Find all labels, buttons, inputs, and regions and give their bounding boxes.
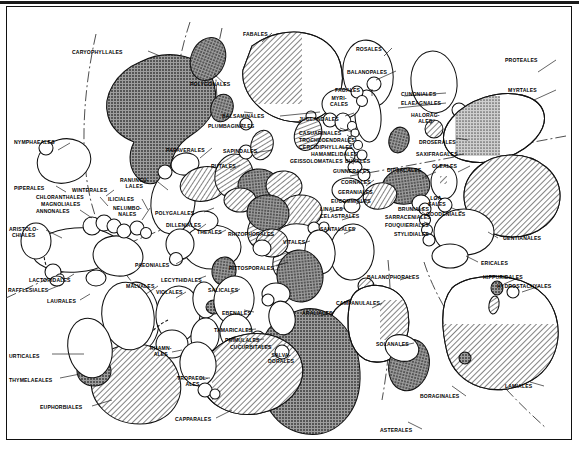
order-label-loasales: LOA-SALES <box>428 196 446 207</box>
order-label-campanulales: CAMPANULALES <box>336 301 380 307</box>
order-label-plumbaginales: PLUMBAGINALES <box>208 124 254 130</box>
order-label-rutales: RUTALES <box>211 164 236 170</box>
order-label-primulales: PRIMULALES <box>225 338 260 344</box>
order-label-aristolochiales: ARISTOLO-CHIALES <box>9 227 38 238</box>
order-label-salvadorales: SALVA-DORALES <box>268 353 294 364</box>
order-label-nymphaeales: NYMPHAEALES <box>14 140 55 146</box>
order-label-myrtales: MYRTALES <box>508 88 537 94</box>
order-label-saxifragales: SAXIFRAGALES <box>416 152 458 158</box>
order-label-ebenales: EBENALES <box>222 311 251 317</box>
order-label-polygonales: POLYGONALES <box>190 82 230 88</box>
order-label-tamaricales: TAMARICALES <box>214 328 252 334</box>
order-label-rhizophorales: RHIZOPHORALES <box>228 232 274 238</box>
order-label-geissolomatales: GEISSOLOMATALES <box>290 159 343 165</box>
order-label-capparales: CAPPARALES <box>175 417 211 423</box>
order-label-fabales: FABALES <box>243 32 268 38</box>
order-label-ranunculales: RANUNCU-LALES <box>120 178 149 189</box>
order-label-droserales: DROSERALES <box>419 140 456 146</box>
order-label-lecythidales: LECYTHIDALES <box>161 278 202 284</box>
order-label-dipsacales: DIPSACALES <box>387 168 421 174</box>
order-label-balanopales: BALANOPALES <box>347 70 387 76</box>
order-label-thymelaeales: THYMELAEALES <box>9 378 52 384</box>
order-label-balsaminales: BALSAMINALES <box>222 114 264 120</box>
order-label-sapindales: SAPINDALES <box>223 149 257 155</box>
order-label-goodeniales: GOODENIALES <box>426 212 465 218</box>
order-label-piperales: PIPERALES <box>14 186 44 192</box>
order-label-haloragales: HALORAG-ALES <box>411 113 440 124</box>
order-label-vitales: VITALES <box>283 240 305 246</box>
order-label-tropaeolales: TROPAEOL-ALES <box>177 376 208 387</box>
order-label-chloranthales: CHLORANTHALES <box>36 195 84 201</box>
order-label-fouquieriales: FOUQUIERIALES <box>385 223 429 229</box>
order-label-balanophorales: BALANOPHORALES <box>367 275 419 281</box>
order-label-fagales: FAGALES <box>335 88 360 94</box>
order-label-rafflesiales: RAFFLESIALES <box>8 288 48 294</box>
figure-canvas: CARYOPHYLLALESFABALESROSALESPROTEALESBAL… <box>0 0 579 450</box>
order-label-salicales: SALICALES <box>208 288 238 294</box>
order-label-santalales: SANTALALES <box>320 227 355 233</box>
order-label-trochodendrales: TROCHODENDRALES <box>299 138 355 144</box>
order-label-ericales: ERICALES <box>481 261 508 267</box>
order-label-juglandales: JUGLANDALES <box>299 117 339 123</box>
order-label-violales: VIOLALES <box>156 290 183 296</box>
order-label-pittosporales: PITTOSPORALES <box>229 266 274 272</box>
order-label-asterales: ASTERALES <box>380 428 412 434</box>
order-label-celastrales: CELASTRALES <box>320 214 359 220</box>
order-label-eucommiales: EUCOMMIALES <box>331 199 371 205</box>
order-label-urticales: URTICALES <box>9 354 40 360</box>
order-label-lamiales: LAMIALES <box>505 384 532 390</box>
order-label-papaverales: PAPAVERALES <box>166 148 205 154</box>
order-label-caryophyllales: CARYOPHYLLALES <box>72 50 123 56</box>
order-label-hydrostachyales: HYDROSTACHYALES <box>497 284 551 290</box>
order-label-cercidiphyllales: CERCIDIPHYLLALES <box>299 145 353 151</box>
order-label-stylidiales: STYLIDIALES <box>394 232 429 238</box>
order-label-proteales: PROTEALES <box>505 58 537 64</box>
order-label-annonales: ANNONALES <box>36 209 70 215</box>
order-label-cunoniales: CUNONIALES <box>401 92 436 98</box>
order-label-hippuridales: HIPPURIDALES <box>483 275 523 281</box>
order-label-lactoridales: LACTORIDALES <box>29 278 71 284</box>
order-label-theales: THEALES <box>197 230 222 236</box>
order-label-linales: LINALES <box>320 207 343 213</box>
order-label-boraginales: BORAGINALES <box>420 394 459 400</box>
order-label-gunnerales: GUNNERALES <box>333 169 370 175</box>
order-label-gentianales: GENTIANALES <box>503 236 541 242</box>
order-label-solanales: SOLANALES <box>376 342 409 348</box>
order-label-laurales: LAURALES <box>47 299 76 305</box>
order-label-hamamelidales: HAMAMELIDALES <box>311 152 358 158</box>
order-label-buxales: BUXALES <box>345 159 370 165</box>
order-label-casuarinales: CASUARINALES <box>299 131 341 137</box>
order-label-winterales: WINTERALES <box>72 188 107 194</box>
order-label-malvales: MALVALES <box>126 284 154 290</box>
order-label-paeoniales: PAEONIALES <box>135 263 169 269</box>
order-label-rhamnales: RHAMN-ALES <box>150 346 172 357</box>
order-label-iliciales: ILICIALES <box>108 197 134 203</box>
order-label-araliales: ARALIALES <box>302 311 333 317</box>
order-label-geraniales: GERANIALES <box>338 190 373 196</box>
order-label-euphorbiales: EUPHORBIALES <box>40 405 82 411</box>
order-label-polygalales: POLYGALALES <box>155 211 194 217</box>
order-label-rosales: ROSALES <box>356 47 382 53</box>
order-label-dilleniales: DILLENIALES <box>166 223 201 229</box>
order-label-cornales: CORNALES <box>341 180 371 186</box>
order-label-sarraceniales: SARRACENIALES <box>385 215 431 221</box>
order-label-brunniales: BRUNIALES <box>398 207 429 213</box>
bubble-diagram-shapes <box>0 0 579 450</box>
order-label-cucurbitales: CUCURBITALES <box>230 345 272 351</box>
order-label-magnoliales: MAGNOLIALES <box>41 202 80 208</box>
order-label-nelumbonales: NELUMBO-NALES <box>113 206 142 217</box>
order-label-oleales: OLEALES <box>432 164 457 170</box>
order-label-elaeagnales: ELAEAGNALES <box>401 101 441 107</box>
order-label-myricales: MYRI-CALES <box>330 96 348 107</box>
